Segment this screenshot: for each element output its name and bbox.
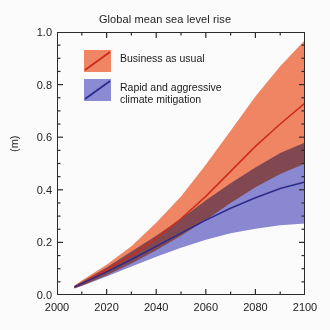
legend-swatch-business-as-usual (84, 50, 111, 72)
legend: Business as usual Rapid and aggressive c… (84, 50, 244, 112)
x-axis-tick-labels: 200020202040206020802100 (57, 301, 305, 317)
x-tick-label: 2100 (293, 301, 317, 313)
x-tick-label: 2040 (144, 301, 168, 313)
y-tick-label: 0.2 (6, 236, 52, 248)
legend-item-business-as-usual: Business as usual (84, 50, 244, 72)
y-tick-label: 0.8 (6, 79, 52, 91)
x-tick-label: 2000 (45, 301, 69, 313)
y-tick-label: 1.0 (6, 26, 52, 38)
y-tick-label: 0.4 (6, 184, 52, 196)
legend-item-climate-mitigation: Rapid and aggressive climate mitigation (84, 79, 244, 105)
y-axis-tick-labels: 0.00.20.40.60.81.0 (0, 32, 52, 295)
legend-label-business-as-usual: Business as usual (120, 50, 205, 65)
chart-figure: Global mean sea level rise (m) 0.00.20.4… (0, 0, 330, 330)
legend-swatch-climate-mitigation (84, 79, 111, 101)
x-tick-label: 2080 (243, 301, 267, 313)
y-tick-label: 0.0 (6, 289, 52, 301)
page-title: Global mean sea level rise (0, 13, 330, 25)
x-tick-label: 2060 (194, 301, 218, 313)
x-tick-label: 2020 (94, 301, 118, 313)
y-tick-label: 0.6 (6, 131, 52, 143)
legend-label-climate-mitigation: Rapid and aggressive climate mitigation (120, 79, 222, 105)
